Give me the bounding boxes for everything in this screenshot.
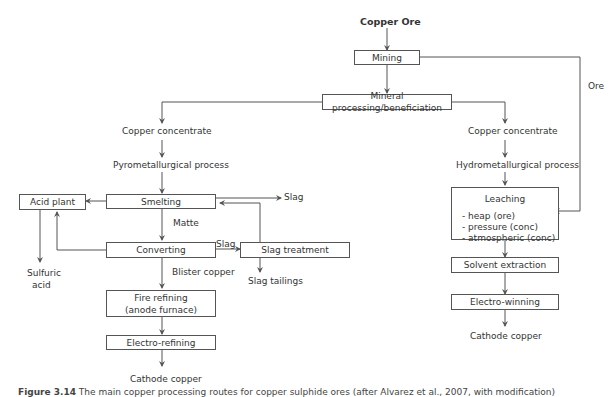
figure-number: Figure 3.14: [18, 387, 76, 397]
copper-concentrate-right-label: Copper concentrate: [468, 126, 557, 137]
slag-tailings-label: Slag tailings: [248, 276, 303, 287]
mineral-processing-node: Mineral processing/beneficiation: [322, 94, 452, 110]
slag-from-converting-label: Slag: [216, 239, 235, 250]
electro-refining-node: Electro-refining: [106, 335, 216, 350]
cathode-copper-right-label: Cathode copper: [470, 331, 542, 342]
converting-node: Converting: [106, 242, 216, 258]
cathode-copper-left-label: Cathode copper: [130, 374, 202, 385]
acid-plant-node: Acid plant: [19, 194, 86, 210]
slag-treatment-node: Slag treatment: [240, 242, 350, 258]
copper-ore-title: Copper Ore: [360, 16, 421, 27]
ore-label: Ore: [588, 81, 604, 92]
fire-refining-line1: Fire refining: [134, 292, 187, 304]
fire-refining-node: Fire refining (anode furnace): [106, 290, 216, 317]
slag-from-smelting-label: Slag: [284, 192, 303, 203]
leaching-node: Leaching - heap (ore) - pressure (conc) …: [451, 187, 559, 240]
blister-copper-label: Blister copper: [172, 267, 235, 278]
solvent-extraction-node: Solvent extraction: [451, 257, 559, 273]
figure-caption: Figure 3.14 The main copper processing r…: [18, 387, 555, 397]
matte-label: Matte: [173, 218, 199, 229]
hydrometallurgical-label: Hydrometallurgical process: [456, 160, 579, 171]
mining-node: Mining: [354, 50, 420, 65]
leaching-title: Leaching: [485, 193, 525, 205]
fire-refining-line2: (anode furnace): [125, 304, 197, 316]
leaching-options-list: - heap (ore) - pressure (conc) - atmosph…: [452, 211, 558, 244]
leaching-option-heap: - heap (ore): [462, 211, 558, 222]
pyrometallurgical-label: Pyrometallurgical process: [113, 160, 229, 171]
figure-caption-text: The main copper processing routes for co…: [79, 387, 555, 397]
sulfuric-acid-label-1: Sulfuric: [27, 268, 61, 279]
leaching-option-pressure: - pressure (conc): [462, 222, 558, 233]
electro-winning-node: Electro-winning: [451, 294, 559, 310]
copper-concentrate-left-label: Copper concentrate: [122, 126, 211, 137]
leaching-option-atmospheric: - atmospheric (conc): [462, 233, 558, 244]
sulfuric-acid-label-2: acid: [32, 280, 51, 291]
smelting-node: Smelting: [106, 194, 216, 209]
